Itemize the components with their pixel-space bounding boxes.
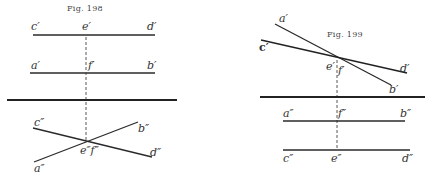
label-d2: d″ — [402, 152, 414, 165]
label-e2f2: e″f″ — [80, 144, 100, 157]
label-d1: d′ — [400, 62, 410, 75]
label-f2: f″ — [337, 107, 347, 120]
label-a1: a′ — [31, 59, 41, 72]
label-e1: e′ — [326, 60, 336, 73]
label-c2: c″ — [283, 152, 294, 165]
label-c1: c′ — [259, 41, 269, 54]
label-c2: c″ — [34, 116, 45, 129]
figure-198: Fig. 198 c′ e′ d′ a′ f′ b′ c″ b″ e″f″ d″… — [7, 4, 177, 175]
label-c1: c′ — [31, 20, 40, 33]
projection-diagram: Fig. 198 c′ e′ d′ a′ f′ b′ c″ b″ e″f″ d″… — [0, 0, 428, 176]
label-b2: b″ — [138, 122, 150, 135]
label-d1: d′ — [147, 20, 157, 33]
label-e2: e″ — [331, 152, 343, 165]
label-f1: f′ — [87, 59, 95, 72]
label-a2: a″ — [34, 162, 46, 175]
label-b2: b″ — [400, 107, 412, 120]
label-a1: a′ — [279, 12, 289, 25]
label-a2: a″ — [283, 107, 295, 120]
figure-199-caption: Fig. 199 — [327, 30, 363, 39]
figure-199: Fig. 199 a′ c′ e′ f′ d′ b′ a″ f″ b″ c″ e… — [259, 12, 425, 165]
label-b1: b′ — [147, 59, 157, 72]
label-b1: b′ — [389, 83, 399, 96]
label-e1: e′ — [82, 20, 92, 33]
label-d2: d″ — [150, 146, 162, 159]
label-f1: f′ — [337, 64, 345, 77]
figure-198-caption: Fig. 198 — [67, 4, 103, 13]
